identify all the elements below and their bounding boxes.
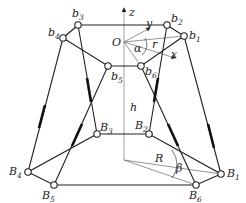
svg-text:B2: B2 [134, 119, 148, 134]
svg-text:b2: b2 [171, 12, 183, 27]
R-label: R [154, 152, 163, 165]
svg-text:b6: b6 [145, 65, 157, 80]
svg-text:b1: b1 [189, 29, 201, 44]
alpha-arc [142, 38, 147, 55]
svg-text:B1: B1 [226, 167, 240, 182]
svg-text:B5: B5 [41, 189, 55, 203]
base-reference-lines [124, 160, 221, 185]
h-label: h [130, 101, 137, 114]
alpha-label: α [134, 42, 142, 55]
r-label: r [152, 38, 158, 51]
svg-text:B6: B6 [188, 189, 202, 203]
x-label: x [171, 48, 178, 61]
z-label: z [128, 6, 135, 19]
joints [25, 22, 224, 188]
origin-label: O [112, 36, 121, 49]
svg-text:b4: b4 [48, 26, 60, 41]
y-label: y [145, 17, 153, 30]
svg-text:b5: b5 [111, 70, 123, 85]
svg-text:B3: B3 [99, 121, 113, 136]
legs [28, 25, 221, 185]
beta-label: β [175, 162, 182, 175]
svg-text:B4: B4 [8, 165, 22, 180]
leg-actuators [39, 78, 214, 148]
upper-joint-labels: b2 b1 b3 b4 b5 b6 [48, 7, 201, 85]
stewart-platform-diagram: z O y x r α h R β b2 b1 b3 b4 b5 b6 B3 B… [0, 0, 246, 203]
svg-text:b3: b3 [72, 7, 84, 22]
